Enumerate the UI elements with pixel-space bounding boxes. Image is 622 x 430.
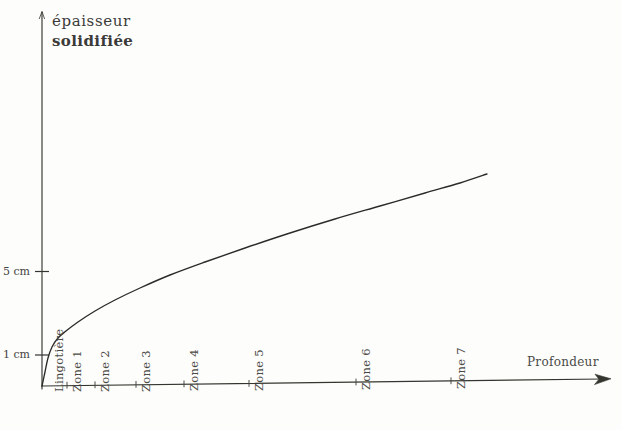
x-tick-label-zone-2: Zone 2 xyxy=(98,350,112,392)
x-tick-label-lingotiere: Lingotière xyxy=(52,329,66,392)
x-tick-label-zone-6: Zone 6 xyxy=(359,348,373,390)
x-tick-label-zone-5: Zone 5 xyxy=(252,349,266,391)
x-axis-line xyxy=(42,379,603,386)
x-tick-label-zone-3: Zone 3 xyxy=(139,350,153,392)
x-tick-label-zone-4: Zone 4 xyxy=(187,349,201,391)
x-tick-label-zone-1: Zone 1 xyxy=(70,350,84,392)
x-axis-title: Profondeur xyxy=(527,355,599,369)
x-tick-label-zone-7: Zone 7 xyxy=(454,347,468,389)
y-tick-label-5cm: 5 cm xyxy=(2,265,30,278)
y-axis-title-line-1: épaisseur xyxy=(52,12,131,30)
y-axis-title-line-2: solidifiée xyxy=(52,32,133,50)
chart-figure: épaisseur solidifiée Profondeur 5 cm 1 c… xyxy=(0,0,622,430)
y-tick-label-1cm: 1 cm xyxy=(2,348,30,361)
